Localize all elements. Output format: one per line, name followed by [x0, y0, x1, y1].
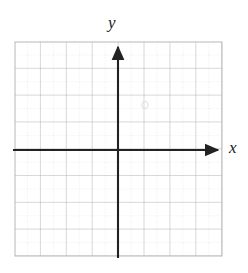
coordinate-grid-svg: [0, 0, 248, 273]
x-axis-label: x: [229, 139, 237, 156]
y-axis-label: y: [108, 14, 116, 31]
coordinate-plane-figure: y x: [0, 0, 248, 273]
